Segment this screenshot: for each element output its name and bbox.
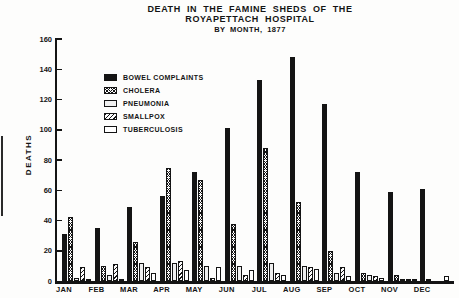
legend-label-tuberculosis: TUBERCULOSIS bbox=[123, 126, 183, 133]
x-label-may: MAY bbox=[179, 285, 209, 294]
bar-smallpox-feb bbox=[113, 264, 118, 281]
legend-swatch-pneumonia-icon bbox=[104, 100, 117, 107]
bar-cholera-may bbox=[198, 180, 203, 281]
legend-label-cholera: CHOLERA bbox=[123, 87, 160, 94]
bar-bowel-complaints-mar bbox=[127, 207, 132, 281]
y-tick-mark-60 bbox=[57, 190, 62, 192]
bar-tuberculosis-feb bbox=[119, 279, 124, 281]
legend-label-pneumonia: PNEUMONIA bbox=[123, 100, 169, 107]
legend-item-smallpox: SMALLPOX bbox=[104, 112, 204, 120]
bar-pneumonia-aug bbox=[302, 266, 307, 281]
bar-tuberculosis-mar bbox=[151, 273, 156, 281]
y-tick-mark-80 bbox=[57, 159, 62, 161]
chart-title-line2: ROYAPETTACH HOSPITAL bbox=[50, 14, 450, 24]
bar-smallpox-nov bbox=[406, 279, 411, 281]
bar-tuberculosis-jun bbox=[249, 270, 254, 281]
bar-group-jan bbox=[62, 217, 91, 281]
y-tick-mark-160 bbox=[57, 38, 62, 40]
x-label-aug: AUG bbox=[277, 285, 307, 294]
bar-group-apr bbox=[160, 168, 189, 281]
x-label-nov: NOV bbox=[375, 285, 405, 294]
bar-bowel-complaints-sep bbox=[322, 104, 327, 281]
legend-label-bowel-complaints: BOWEL COMPLAINTS bbox=[123, 74, 204, 81]
y-tick-mark-140 bbox=[57, 69, 62, 71]
bar-pneumonia-feb bbox=[107, 275, 112, 281]
bar-cholera-jan bbox=[68, 217, 73, 281]
x-axis-line bbox=[55, 281, 454, 284]
bar-smallpox-may bbox=[210, 278, 215, 281]
legend-swatch-cholera-icon bbox=[104, 87, 117, 94]
bar-smallpox-aug bbox=[308, 267, 313, 281]
bar-cholera-apr bbox=[166, 168, 171, 281]
bar-bowel-complaints-apr bbox=[160, 196, 165, 281]
x-label-jun: JUN bbox=[212, 285, 242, 294]
legend-swatch-bowel-complaints-icon bbox=[104, 74, 117, 81]
legend-item-cholera: CHOLERA bbox=[104, 86, 204, 94]
bar-cholera-jul bbox=[263, 148, 268, 281]
y-tick-label-120: 120 bbox=[30, 95, 52, 104]
bar-cholera-aug bbox=[296, 202, 301, 281]
y-tick-label-140: 140 bbox=[30, 65, 52, 74]
bar-smallpox-mar bbox=[145, 267, 150, 281]
bar-pneumonia-sep bbox=[334, 273, 339, 281]
bar-tuberculosis-jul bbox=[281, 275, 286, 281]
bar-tuberculosis-apr bbox=[184, 270, 189, 281]
bar-pneumonia-nov bbox=[400, 279, 405, 281]
bar-cholera-mar bbox=[133, 242, 138, 281]
bar-bowel-complaints-oct bbox=[355, 172, 360, 281]
bar-smallpox-apr bbox=[178, 261, 183, 281]
x-label-apr: APR bbox=[147, 285, 177, 294]
legend-swatch-tuberculosis-icon bbox=[104, 126, 117, 133]
y-tick-mark-100 bbox=[57, 129, 62, 131]
bar-tuberculosis-oct bbox=[379, 278, 384, 281]
bar-bowel-complaints-jul bbox=[257, 80, 262, 281]
legend: BOWEL COMPLAINTSCHOLERAPNEUMONIASMALLPOX… bbox=[104, 73, 204, 138]
bar-group-dec bbox=[420, 189, 449, 281]
x-label-feb: FEB bbox=[82, 285, 112, 294]
bar-cholera-nov bbox=[394, 275, 399, 281]
y-tick-mark-120 bbox=[57, 99, 62, 101]
y-tick-label-20: 20 bbox=[30, 246, 52, 255]
bar-bowel-complaints-dec bbox=[420, 189, 425, 281]
bar-tuberculosis-may bbox=[216, 267, 221, 281]
bar-tuberculosis-nov bbox=[412, 279, 417, 281]
bar-smallpox-jan bbox=[80, 267, 85, 281]
y-tick-label-60: 60 bbox=[30, 186, 52, 195]
y-tick-label-80: 80 bbox=[30, 156, 52, 165]
bar-group-sep bbox=[322, 104, 351, 281]
legend-item-bowel-complaints: BOWEL COMPLAINTS bbox=[104, 73, 204, 81]
bar-pneumonia-jul bbox=[269, 263, 274, 281]
bar-smallpox-oct bbox=[373, 276, 378, 281]
bar-cholera-dec bbox=[426, 279, 431, 281]
chart-title-line1: DEATH IN THE FAMINE SHEDS OF THE bbox=[50, 4, 450, 14]
bar-cholera-oct bbox=[361, 273, 366, 281]
bar-pneumonia-may bbox=[204, 266, 209, 281]
bar-group-may bbox=[192, 172, 221, 281]
bar-group-oct bbox=[355, 172, 384, 281]
legend-swatch-smallpox-icon bbox=[104, 113, 117, 120]
legend-label-smallpox: SMALLPOX bbox=[123, 113, 165, 120]
chart: DEATH IN THE FAMINE SHEDS OF THE ROYAPET… bbox=[0, 0, 459, 298]
x-label-oct: OCT bbox=[342, 285, 372, 294]
bar-cholera-sep bbox=[328, 251, 333, 281]
bar-pneumonia-jun bbox=[237, 266, 242, 281]
x-label-jul: JUL bbox=[244, 285, 274, 294]
bar-bowel-complaints-feb bbox=[95, 228, 100, 281]
bar-cholera-feb bbox=[101, 266, 106, 281]
legend-item-tuberculosis: TUBERCULOSIS bbox=[104, 125, 204, 133]
bar-cholera-jun bbox=[231, 224, 236, 281]
bar-pneumonia-apr bbox=[172, 263, 177, 281]
bar-smallpox-jun bbox=[243, 275, 248, 281]
bar-tuberculosis-jan bbox=[86, 279, 91, 281]
bar-group-feb bbox=[95, 228, 124, 281]
bar-tuberculosis-sep bbox=[346, 276, 351, 281]
bar-bowel-complaints-jun bbox=[225, 128, 230, 281]
bar-bowel-complaints-aug bbox=[290, 57, 295, 281]
bar-group-mar bbox=[127, 207, 156, 281]
bar-bowel-complaints-may bbox=[192, 172, 197, 281]
bar-bowel-complaints-jan bbox=[62, 234, 67, 281]
bar-group-aug bbox=[290, 57, 319, 281]
x-label-dec: DEC bbox=[407, 285, 437, 294]
y-tick-label-40: 40 bbox=[30, 216, 52, 225]
bar-pneumonia-oct bbox=[367, 275, 372, 281]
